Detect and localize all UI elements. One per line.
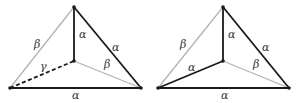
edge-left-top	[158, 7, 223, 88]
edge-left-top	[10, 7, 74, 88]
edge-label: β	[103, 58, 110, 71]
edge-label: α	[221, 89, 229, 102]
diagram-canvas: βααγβαβαααβα	[0, 0, 300, 103]
edge-label: α	[72, 89, 80, 102]
vertex-left	[156, 86, 160, 90]
vertex-center	[72, 59, 76, 63]
edge-label: β	[33, 38, 40, 51]
vertex-right	[139, 86, 143, 90]
edge-label: γ	[40, 60, 47, 73]
edge-label: α	[262, 41, 270, 54]
edge-label: α	[188, 61, 196, 74]
graph-right: βαααβα	[156, 5, 291, 102]
edge-label: α	[79, 28, 87, 41]
edge-label: β	[252, 58, 259, 71]
vertex-center	[221, 59, 225, 63]
vertex-left	[8, 86, 12, 90]
edge-label: β	[179, 38, 186, 51]
vertex-top	[221, 5, 225, 9]
vertex-top	[72, 5, 76, 9]
edge-label: α	[112, 41, 120, 54]
edge-top-right	[223, 7, 289, 88]
graph-left: βααγβα	[8, 5, 143, 102]
vertex-right	[287, 86, 291, 90]
edge-top-right	[74, 7, 141, 88]
edge-label: α	[228, 28, 236, 41]
